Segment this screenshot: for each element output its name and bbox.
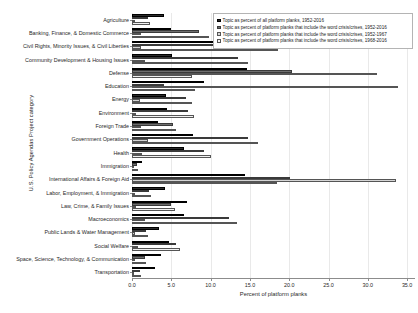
- category-label: Government Operations: [71, 136, 129, 142]
- legend-label: Topic as percent of platform planks that…: [223, 38, 387, 43]
- category-label: Environment: [99, 110, 129, 116]
- plot-area: AgricultureBanking, Finance, & Domestic …: [132, 13, 415, 279]
- bar: [132, 110, 188, 112]
- chart-row: Education: [132, 80, 415, 93]
- chart-row: Transportation: [132, 266, 415, 279]
- bar: [132, 57, 238, 59]
- category-label: Agriculture: [103, 17, 129, 23]
- category-label: Health: [113, 150, 129, 156]
- x-axis-ticks: 0.05.010.015.020.025.030.035.0: [132, 279, 415, 291]
- legend-label: Topic as percent of platform planks that…: [223, 32, 387, 37]
- bar: [132, 155, 211, 157]
- bar: [132, 222, 237, 224]
- chart-row: Defense: [132, 66, 415, 79]
- legend-item: Topic as percent of platform planks that…: [217, 31, 409, 37]
- chart-row: Social Welfare: [132, 239, 415, 252]
- legend-item: Topic as percent of all platform planks,…: [217, 17, 409, 23]
- legend-swatch: [217, 26, 221, 30]
- legend-item: Topic as percent of platform planks that…: [217, 24, 409, 30]
- bar: [132, 217, 229, 219]
- bar: [132, 97, 186, 99]
- x-axis-tick-label: 10.0: [205, 282, 216, 288]
- legend-item: Topic as percent of platform planks that…: [217, 38, 409, 44]
- bar: [132, 62, 248, 64]
- x-axis-tick: [132, 279, 133, 281]
- bar: [132, 243, 176, 245]
- bar: [132, 169, 138, 171]
- chart-row: Macroeconomics: [132, 213, 415, 226]
- x-axis-tick: [171, 279, 172, 281]
- category-label: Civil Rights, Minority Issues, & Civil L…: [23, 43, 129, 49]
- chart-row: Labor, Employment, & Immigration: [132, 186, 415, 199]
- bar: [132, 137, 248, 139]
- bar: [132, 115, 194, 117]
- legend-label: Topic as percent of all platform planks,…: [223, 18, 324, 23]
- category-label: Law, Crime, & Family Issues: [61, 203, 129, 209]
- category-label: Defense: [109, 70, 129, 76]
- category-label: Transportation: [94, 269, 129, 275]
- x-axis-tick: [407, 279, 408, 281]
- x-axis-tick-label: 25.0: [323, 282, 334, 288]
- chart-row: Law, Crime, & Family Issues: [132, 199, 415, 212]
- category-label: Energy: [112, 96, 129, 102]
- bar: [132, 262, 146, 264]
- bar: [132, 30, 199, 32]
- x-axis-tick: [329, 279, 330, 281]
- x-axis-tick-label: 20.0: [284, 282, 295, 288]
- category-label: Immigration: [101, 163, 129, 169]
- chart-row: Space, Science, Technology, & Communicat…: [132, 252, 415, 265]
- legend-swatch: [217, 19, 221, 23]
- chart-legend: Topic as percent of all platform planks,…: [213, 13, 413, 49]
- category-label: Public Lands & Water Management: [44, 229, 129, 235]
- chart-row: Government Operations: [132, 133, 415, 146]
- x-axis-tick: [211, 279, 212, 281]
- bar: [132, 203, 171, 205]
- x-axis-tick-label: 30.0: [363, 282, 374, 288]
- category-label: Education: [105, 83, 129, 89]
- bar: [132, 248, 180, 250]
- chart-row: Foreign Trade: [132, 119, 415, 132]
- legend-label: Topic as percent of platform planks that…: [223, 25, 387, 30]
- x-axis-title: Percent of platform planks: [132, 291, 415, 297]
- bar: [132, 235, 148, 237]
- bar: [132, 182, 277, 184]
- bar: [132, 275, 141, 277]
- category-label: Social Welfare: [94, 243, 129, 249]
- x-axis-tick-label: 35.0: [402, 282, 413, 288]
- chart-row: Public Lands & Water Management: [132, 226, 415, 239]
- legend-swatch: [217, 39, 221, 43]
- chart-row: Health: [132, 146, 415, 159]
- category-label: International Affairs & Foreign Aid: [49, 176, 129, 182]
- x-axis-tick-label: 15.0: [245, 282, 256, 288]
- bar: [132, 150, 204, 152]
- category-label: Banking, Finance, & Domestic Commerce: [29, 30, 129, 36]
- chart-row: Environment: [132, 106, 415, 119]
- category-label: Macroeconomics: [88, 216, 129, 222]
- bar: [132, 129, 176, 131]
- x-axis-tick-label: 5.0: [168, 282, 176, 288]
- bar: [132, 142, 258, 144]
- bar: [132, 75, 192, 77]
- chart-figure: U.S. Policy Agendas Project category Agr…: [0, 0, 418, 313]
- x-axis-tick: [250, 279, 251, 281]
- bar: [132, 36, 209, 38]
- category-label: Labor, Employment, & Immigration: [46, 190, 129, 196]
- category-label: Foreign Trade: [95, 123, 129, 129]
- bar: [132, 89, 195, 91]
- x-axis-tick: [368, 279, 369, 281]
- bar: [132, 102, 192, 104]
- bar: [132, 49, 278, 51]
- bar: [132, 195, 151, 197]
- y-axis-title: U.S. Policy Agendas Project category: [28, 58, 34, 228]
- category-label: Space, Science, Technology, & Communicat…: [16, 256, 129, 262]
- chart-row: Community Development & Housing Issues: [132, 53, 415, 66]
- chart-row: Immigration: [132, 159, 415, 172]
- x-axis-tick-label: 0.0: [128, 282, 136, 288]
- chart-row: Energy: [132, 93, 415, 106]
- x-axis-tick: [289, 279, 290, 281]
- legend-swatch: [217, 32, 221, 36]
- chart-row: International Affairs & Foreign Aid: [132, 173, 415, 186]
- bar: [132, 22, 150, 24]
- bar: [132, 208, 175, 210]
- category-label: Community Development & Housing Issues: [25, 57, 129, 63]
